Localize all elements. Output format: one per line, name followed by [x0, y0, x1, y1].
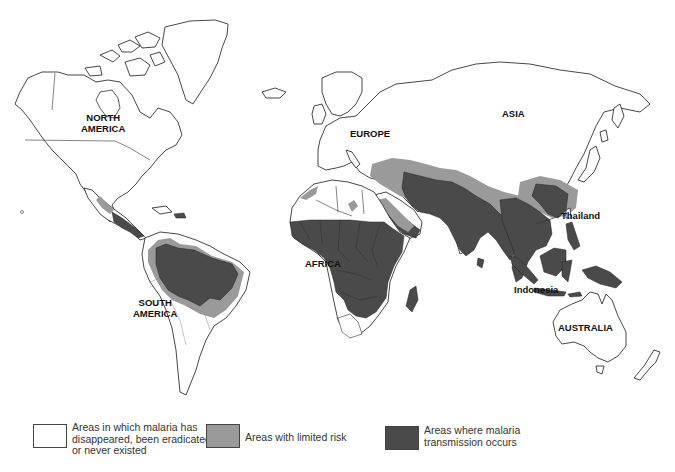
iceland	[262, 88, 286, 98]
sulawesi	[562, 260, 572, 282]
legend-item-transmission: Areas where malaria transmission occurs	[385, 424, 520, 450]
hispaniola	[174, 213, 186, 218]
label-asia: ASIA	[502, 108, 525, 119]
legend-text-no-risk: Areas in which malaria has disappeared, …	[72, 422, 214, 457]
scandinavia	[322, 72, 362, 116]
greenland	[162, 20, 228, 104]
label-indonesia: Indonesia	[514, 284, 558, 295]
tasmania	[596, 366, 604, 374]
legend-text-limited-risk: Areas with limited risk	[245, 432, 347, 444]
legend: Areas in which malaria has disappeared, …	[0, 420, 675, 470]
arctic-islands	[85, 32, 165, 76]
swatch-no-risk	[33, 424, 67, 448]
thailand-leader-line	[530, 210, 570, 230]
world-malaria-map	[0, 0, 675, 400]
legend-text-transmission: Areas where malaria transmission occurs	[424, 425, 520, 448]
label-north-america: NORTH AMERICA	[81, 112, 125, 134]
central-america-transmission	[112, 212, 144, 238]
caribbean	[152, 206, 172, 214]
legend-item-no-risk: Areas in which malaria has disappeared, …	[33, 422, 214, 457]
swatch-transmission	[385, 426, 419, 450]
label-australia: AUSTRALIA	[558, 322, 613, 333]
new-guinea	[582, 266, 622, 288]
timor-islands	[568, 292, 582, 297]
label-south-america: SOUTH AMERICA	[133, 297, 177, 319]
british-isles	[312, 104, 326, 124]
label-africa: AFRICA	[305, 258, 341, 269]
sri-lanka	[477, 258, 484, 268]
label-europe: EUROPE	[350, 128, 390, 139]
legend-item-limited-risk: Areas with limited risk	[206, 422, 347, 448]
hawaii	[21, 211, 24, 214]
swatch-limited-risk	[206, 424, 240, 448]
new-zealand	[634, 350, 660, 380]
madagascar	[406, 286, 418, 312]
